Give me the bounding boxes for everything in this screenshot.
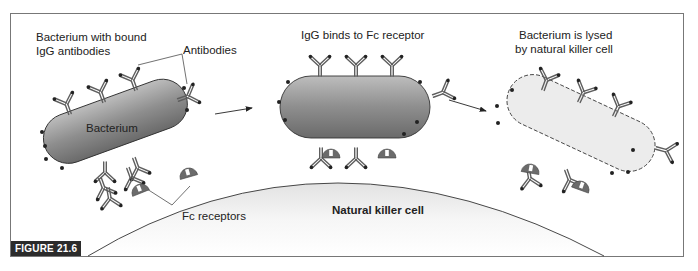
figure-number-badge: FIGURE 21.6 — [11, 241, 81, 256]
panel-3-title-line-2: by natural killer cell — [515, 42, 613, 56]
bacterium-2 — [280, 76, 430, 138]
panel-3-title-line-1: Bacterium is lysed — [519, 28, 612, 42]
bacterium-label: Bacterium — [86, 121, 138, 135]
nk-cell-label: Natural killer cell — [332, 203, 424, 217]
antibodies-callout-label: Antibodies — [183, 43, 237, 57]
fc-receptors-callout-label: Fc receptors — [182, 209, 246, 223]
panel-2-title: IgG binds to Fc receptor — [301, 28, 424, 42]
panel-1-title-line-1: Bacterium with bound — [36, 30, 147, 44]
figure-diagram: Bacterium with bound IgG antibodies Anti… — [0, 0, 698, 271]
panel-1-title-line-2: IgG antibodies — [36, 44, 110, 58]
